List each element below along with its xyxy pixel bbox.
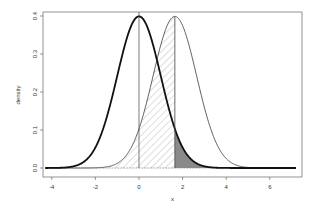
x-tick-label: -2 [93, 184, 99, 190]
x-tick-label: 4 [225, 184, 229, 190]
y-tick-label: 0.4 [32, 11, 38, 20]
density-chart: -4-202460.00.10.20.30.4xdensity [0, 0, 318, 215]
y-axis-label: density [15, 85, 21, 104]
x-tick-label: 0 [137, 184, 141, 190]
y-tick-label: 0.0 [32, 163, 38, 172]
hatched-region [45, 16, 175, 168]
x-tick-label: 6 [268, 184, 272, 190]
x-tick-label: 2 [181, 184, 185, 190]
y-tick-label: 0.3 [32, 49, 38, 58]
y-tick-label: 0.2 [32, 87, 38, 96]
y-tick-label: 0.1 [32, 125, 38, 134]
shaded-tail-region [175, 129, 296, 168]
x-tick-label: -4 [49, 184, 55, 190]
x-axis-label: x [171, 196, 174, 202]
